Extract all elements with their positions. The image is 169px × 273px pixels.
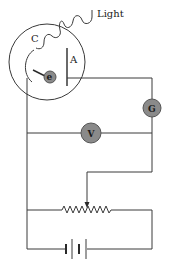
light-wave-icon xyxy=(36,10,92,49)
galvanometer-label: G xyxy=(148,104,156,114)
galvanometer: G xyxy=(143,99,161,117)
anode-label: A xyxy=(69,54,78,65)
cathode-label: C xyxy=(31,33,39,44)
rheostat xyxy=(27,206,152,249)
slider-wire xyxy=(87,172,152,203)
electron-label: e xyxy=(47,72,53,82)
electron-path xyxy=(33,70,45,76)
battery xyxy=(27,239,152,259)
light-label: Light xyxy=(97,8,124,19)
cathode-plate xyxy=(25,50,34,82)
voltmeter: V xyxy=(81,123,101,143)
photoelectric-circuit-diagram: Light C A e G V xyxy=(0,0,169,273)
voltmeter-label: V xyxy=(87,129,96,139)
